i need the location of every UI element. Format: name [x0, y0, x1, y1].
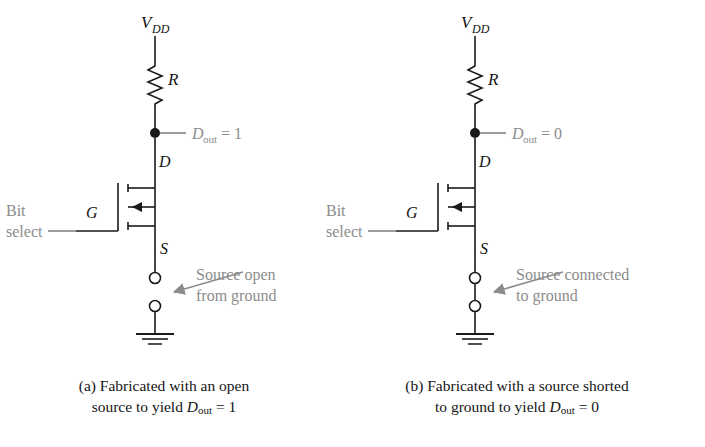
caption-b-line2-post: = 0 [575, 398, 599, 415]
caption-a-line1: (a) Fabricated with an open [79, 377, 249, 394]
figure-container: V DD R D out = 1 D [0, 0, 705, 447]
annotation-line2-a: from ground [196, 287, 276, 305]
resistor-label-b: R [487, 70, 499, 89]
output-node-b [470, 128, 480, 138]
gate-label-b: G [406, 204, 418, 221]
output-node-a [150, 128, 160, 138]
source-contact-lower-a [150, 301, 161, 312]
caption-b-line2-pre: to ground to yield [435, 398, 550, 415]
bit-select-label-line1-b: Bit [326, 202, 346, 219]
resistor-b [468, 62, 482, 130]
output-sub-a: out [203, 133, 217, 145]
circuit-a: V DD R D out = 1 D [6, 13, 276, 344]
source-contact-upper-b [470, 273, 481, 284]
source-label-a: S [160, 240, 168, 257]
bit-select-label-line2-b: select [326, 223, 363, 240]
source-contact-upper-a [150, 273, 161, 284]
caption-b: (b) Fabricated with a source shorted to … [352, 376, 682, 418]
drain-label-b: D [478, 153, 491, 170]
caption-a: (a) Fabricated with an open source to yi… [14, 376, 314, 418]
output-value-b: = 0 [541, 125, 562, 142]
circuit-b: V DD R D out = 0 D G Bit [326, 13, 629, 344]
caption-b-line1: (b) Fabricated with a source shorted [405, 377, 628, 394]
output-value-a: = 1 [221, 125, 242, 142]
caption-a-line2-pre: source to yield [92, 398, 187, 415]
annotation-line2-b: to ground [516, 287, 578, 305]
supply-sub-a: DD [151, 22, 170, 36]
caption-a-line2-var: D [187, 398, 198, 415]
bit-select-label-line1-a: Bit [6, 202, 26, 219]
resistor-a [148, 62, 162, 130]
caption-a-line2-post: = 1 [212, 398, 236, 415]
caption-b-line2: to ground to yield Dout = 0 [352, 397, 682, 418]
gate-label-a: G [86, 204, 98, 221]
bit-select-label-line2-a: select [6, 223, 43, 240]
caption-a-line2: source to yield Dout = 1 [14, 397, 314, 418]
annotation-line1-a: Source open [196, 266, 276, 284]
annotation-line1-b: Source connected [516, 266, 629, 283]
caption-b-line2-var: D [550, 398, 561, 415]
source-label-b: S [480, 240, 488, 257]
caption-b-line2-sub: out [561, 404, 575, 416]
resistor-label-a: R [167, 70, 179, 89]
caption-a-line2-sub: out [198, 404, 212, 416]
source-contact-lower-b [470, 301, 481, 312]
supply-sub-b: DD [471, 22, 490, 36]
output-sub-b: out [523, 133, 537, 145]
drain-label-a: D [158, 153, 171, 170]
